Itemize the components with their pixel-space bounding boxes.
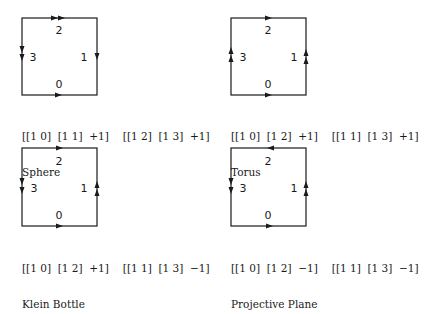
surface-name: Torus xyxy=(231,166,419,178)
generator: [[1 2] [1 3] +1] xyxy=(123,130,210,142)
generator: [[1 0] [1 2] +1] xyxy=(231,130,318,142)
edge-label-top: 2 xyxy=(265,24,272,37)
generator: [[1 0] [1 2] +1] xyxy=(22,262,109,274)
edge-label-right: 1 xyxy=(291,51,298,64)
caption-klein-bottle: [[1 0] [1 2] +1][[1 1] [1 3] −1] Klein B… xyxy=(22,238,210,314)
edge-0-arrow-icon xyxy=(56,224,63,229)
caption-torus: [[1 0] [1 2] +1][[1 1] [1 3] +1] Torus xyxy=(231,106,419,190)
surface-name: Projective Plane xyxy=(231,298,419,310)
diagram-torus: 2 1 0 3 xyxy=(229,16,309,98)
generator: [[1 1] [1 3] −1] xyxy=(123,262,210,274)
edge-label-left: 3 xyxy=(30,51,37,64)
edge-0-arrow-icon xyxy=(266,224,273,229)
edge-1-arrow-icon xyxy=(95,53,100,60)
edge-label-bottom: 0 xyxy=(56,209,63,222)
edge-2-arrow-icon xyxy=(51,16,65,21)
caption-sphere: [[1 0] [1 1] +1][[1 2] [1 3] +1] Sphere xyxy=(22,106,210,190)
surface-name: Klein Bottle xyxy=(22,298,210,310)
generator: [[1 1] [1 3] −1] xyxy=(332,262,419,274)
surface-name: Sphere xyxy=(22,166,210,178)
edge-0-arrow-icon xyxy=(55,93,62,98)
edge-label-bottom: 0 xyxy=(56,78,63,91)
edge-label-bottom: 0 xyxy=(265,78,272,91)
edge-label-bottom: 0 xyxy=(265,209,272,222)
generator: [[1 0] [1 2] −1] xyxy=(231,262,318,274)
generator-list: [[1 0] [1 1] +1][[1 2] [1 3] +1] xyxy=(22,130,210,142)
generator: [[1 0] [1 1] +1] xyxy=(22,130,109,142)
diagram-sphere: 2 1 0 3 xyxy=(20,16,100,98)
edge-label-left: 3 xyxy=(240,51,247,64)
caption-projective-plane: [[1 0] [1 2] −1][[1 1] [1 3] −1] Project… xyxy=(231,238,419,314)
generator-list: [[1 0] [1 2] +1][[1 1] [1 3] −1] xyxy=(22,262,210,274)
generator-list: [[1 0] [1 2] −1][[1 1] [1 3] −1] xyxy=(231,262,419,274)
generator-list: [[1 0] [1 2] +1][[1 1] [1 3] +1] xyxy=(231,130,419,142)
generator: [[1 1] [1 3] +1] xyxy=(332,130,419,142)
edge-label-right: 1 xyxy=(81,51,88,64)
edge-2-arrow-icon xyxy=(265,16,272,21)
edge-label-top: 2 xyxy=(56,24,63,37)
edge-0-arrow-icon xyxy=(265,93,272,98)
